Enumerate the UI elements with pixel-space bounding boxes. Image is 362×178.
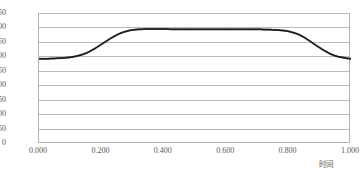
x-axis-tick-label: 0.600	[203, 146, 247, 155]
y-axis-tick-label: 400	[0, 23, 6, 31]
plot-area	[38, 13, 350, 143]
chart-root: 050100150200250300350400450 0.0000.2000.…	[0, 0, 362, 178]
x-axis-tick-label: 0.000	[16, 146, 60, 155]
y-axis-tick-label: 200	[0, 81, 6, 89]
x-axis-tick-label: 0.400	[141, 146, 185, 155]
y-axis-tick-label: 100	[0, 110, 6, 118]
series-markers	[39, 28, 351, 59]
y-axis-tick-label: 250	[0, 67, 6, 75]
x-axis-tick-label: 0.800	[266, 146, 310, 155]
x-axis-title: 时间	[300, 160, 352, 169]
y-axis-tick-label: 450	[0, 9, 6, 17]
x-axis-tick-label: 1.000	[328, 146, 362, 155]
y-axis-tick-label: 150	[0, 96, 6, 104]
x-axis-tick-label: 0.200	[78, 146, 122, 155]
y-axis-tick-label: 350	[0, 38, 6, 46]
data-series	[39, 14, 351, 144]
y-axis-tick-label: 50	[0, 125, 6, 133]
y-axis-tick-label: 0	[0, 139, 6, 147]
y-axis-tick-label: 300	[0, 52, 6, 60]
